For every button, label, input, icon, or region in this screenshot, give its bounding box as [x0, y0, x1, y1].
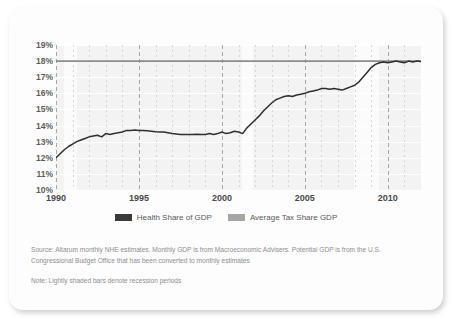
y-axis-tick-label: 11% — [13, 169, 53, 179]
footnotes: Source: Altarum monthly NHE estimates. M… — [31, 245, 423, 287]
y-axis-tick-label: 16% — [13, 88, 53, 98]
series-line-health-share-of-gdp — [56, 61, 421, 158]
x-axis-tick-label: 1990 — [46, 193, 66, 203]
y-axis-tick-label: 19% — [13, 40, 53, 50]
chart-card: 19%18%17%16%15%14%13%12%11%10% 199019952… — [9, 7, 443, 310]
legend-entry[interactable]: Average Tax Share GDP — [228, 213, 337, 222]
plot-area — [56, 45, 421, 190]
legend-entry[interactable]: Health Share of GDP — [115, 213, 212, 222]
chart-legend: Health Share of GDPAverage Tax Share GDP — [9, 213, 443, 222]
y-axis-tick-label: 17% — [13, 72, 53, 82]
x-axis-tick-label: 2000 — [212, 193, 232, 203]
series-canvas — [56, 45, 421, 190]
y-axis-tick-label: 18% — [13, 56, 53, 66]
y-axis: 19%18%17%16%15%14%13%12%11%10% — [9, 45, 53, 190]
y-axis-tick-label: 14% — [13, 121, 53, 131]
legend-swatch-icon — [228, 214, 245, 221]
legend-swatch-icon — [115, 214, 132, 221]
x-axis: 19901995200020052010 — [56, 193, 421, 207]
recession-note: Note: Lightly shaded bars denote recessi… — [31, 276, 423, 287]
x-axis-tick-label: 2005 — [295, 193, 315, 203]
source-note: Source: Altarum monthly NHE estimates. M… — [31, 245, 423, 266]
x-axis-tick-label: 2010 — [378, 193, 398, 203]
y-axis-tick-label: 12% — [13, 153, 53, 163]
x-axis-tick-label: 1995 — [129, 193, 149, 203]
y-axis-tick-label: 13% — [13, 137, 53, 147]
plot-inner — [56, 45, 421, 190]
y-axis-tick-label: 15% — [13, 104, 53, 114]
legend-label: Health Share of GDP — [137, 213, 212, 222]
legend-label: Average Tax Share GDP — [250, 213, 337, 222]
